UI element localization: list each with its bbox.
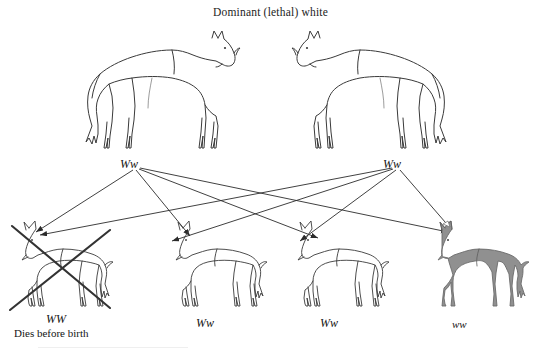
foal-horse-2 xyxy=(162,218,270,314)
offspring-2-genotype: Ww xyxy=(196,316,214,331)
parent-horse-left xyxy=(62,26,242,158)
parent-right-genotype: Ww xyxy=(383,157,401,172)
lethal-cross-offspring-1 xyxy=(2,212,120,318)
diagram-title: Dominant (lethal) white xyxy=(0,6,541,18)
parent-left-genotype: Ww xyxy=(120,157,138,172)
footer-divider xyxy=(38,347,188,348)
offspring-1-note: Dies before birth xyxy=(14,327,89,339)
offspring-1-genotype: WW xyxy=(46,312,66,327)
foal-horse-3 xyxy=(284,218,392,314)
foal-horse-4-gray xyxy=(424,218,532,314)
cross-stroke-b xyxy=(10,230,110,310)
punnett-cross-diagram: Dominant (lethal) white xyxy=(0,0,541,354)
offspring-4-genotype: ww xyxy=(452,318,467,330)
offspring-3-genotype: Ww xyxy=(320,316,338,331)
parent-horse-right xyxy=(290,26,470,158)
